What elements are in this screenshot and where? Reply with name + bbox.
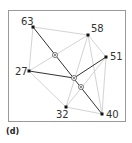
intersection-marker-dot (80, 86, 82, 88)
edge-27-32 (29, 71, 66, 107)
edge-51-32 (66, 57, 106, 107)
edge-58-27 (29, 35, 88, 71)
node-label-63: 63 (21, 16, 34, 27)
intersection-marker-dot (73, 77, 75, 79)
node-label-40: 40 (106, 109, 119, 120)
node-51 (105, 56, 108, 59)
edge-32-40 (66, 107, 102, 114)
edge-58-40 (88, 35, 102, 114)
node-label-32: 32 (56, 109, 69, 120)
edge-63-27 (29, 27, 33, 71)
path-edge-c-51 (74, 57, 106, 78)
edge-63-58 (33, 27, 88, 35)
edge-58-51 (88, 35, 106, 57)
intersection-marker-dot (54, 54, 56, 56)
node-40 (101, 113, 104, 116)
node-58 (87, 34, 90, 37)
node-27 (28, 70, 31, 73)
node-label-58: 58 (91, 23, 104, 34)
graph-diagram: 635851273240 (0, 0, 132, 143)
figure-caption: (d) (6, 127, 19, 136)
nodes: 635851273240 (15, 16, 123, 120)
path-edge-27-c (29, 71, 74, 78)
node-label-27: 27 (15, 66, 28, 77)
edge-51-40 (102, 57, 106, 114)
node-label-51: 51 (110, 51, 123, 62)
